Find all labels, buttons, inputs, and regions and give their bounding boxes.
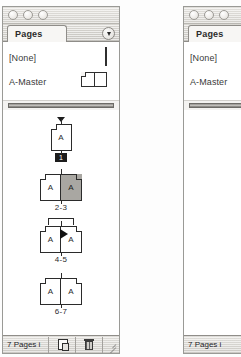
two-page-spread-icon bbox=[81, 72, 107, 87]
page-item-6-7[interactable]: A A 6-7 bbox=[232, 230, 241, 268]
master-row-none[interactable]: [None] bbox=[3, 46, 119, 70]
page-thumbnails: A A bbox=[40, 226, 82, 253]
page-number-badge: 1 bbox=[55, 153, 67, 162]
chevron-down-icon bbox=[107, 32, 111, 36]
page-thumbnails: A A bbox=[40, 174, 82, 201]
page-count-status: 7 Pages i bbox=[3, 340, 48, 349]
tab-pages-label: Pages bbox=[15, 29, 43, 39]
minimize-button[interactable] bbox=[23, 10, 33, 20]
pages-list[interactable]: A A 2-3 A A 4-5 bbox=[184, 110, 241, 344]
page-count-status: 7 Pages i bbox=[184, 340, 241, 349]
panel-tabstrip: Pages bbox=[3, 24, 119, 42]
close-button[interactable] bbox=[189, 10, 199, 20]
page-item-4-5[interactable]: A A 4-5 bbox=[3, 226, 119, 264]
page-thumbnail[interactable]: A bbox=[61, 278, 82, 305]
window-controls bbox=[8, 10, 48, 20]
page-item-2-3[interactable]: A A 2-3 bbox=[3, 174, 119, 212]
panel-tabstrip: Pages bbox=[184, 24, 241, 42]
screenshot-stage: Pages [None] A-Master bbox=[0, 0, 241, 357]
window-controls bbox=[189, 10, 229, 20]
page-item-1[interactable]: A 1 bbox=[3, 124, 119, 162]
splitter-bar bbox=[189, 103, 241, 108]
spread-caption: 4-5 bbox=[55, 255, 67, 264]
panel-menu-button[interactable] bbox=[102, 27, 115, 40]
master-label: [None] bbox=[184, 53, 217, 63]
window-titlebar[interactable] bbox=[184, 7, 241, 24]
page-thumbnail[interactable]: A bbox=[40, 226, 61, 253]
window-titlebar[interactable] bbox=[3, 7, 119, 24]
page-master-letter: A bbox=[48, 235, 53, 244]
new-page-button[interactable] bbox=[48, 337, 75, 353]
master-row-a-master[interactable]: A-Master bbox=[184, 70, 241, 94]
resize-handle[interactable] bbox=[102, 337, 119, 353]
page-thumbnail[interactable]: A bbox=[51, 124, 72, 151]
master-row-a-master[interactable]: A-Master bbox=[3, 70, 119, 94]
tab-pages[interactable]: Pages bbox=[7, 25, 67, 42]
splitter-bar bbox=[8, 103, 114, 108]
page-master-letter: A bbox=[68, 287, 73, 296]
master-label: A-Master bbox=[3, 77, 46, 87]
spread-caption: 2-3 bbox=[55, 203, 67, 212]
page-master-letter: A bbox=[68, 235, 73, 244]
page-master-letter: A bbox=[48, 183, 53, 192]
panel-statusbar: 7 Pages i bbox=[184, 335, 241, 353]
single-page-icon bbox=[105, 48, 107, 66]
trash-icon bbox=[84, 339, 94, 350]
panel-splitter[interactable] bbox=[3, 100, 119, 110]
new-page-icon bbox=[57, 339, 68, 350]
tab-pages[interactable]: Pages bbox=[188, 25, 241, 42]
page-master-letter: A bbox=[58, 133, 63, 142]
pages-list[interactable]: A 1 A A 2-3 bbox=[3, 110, 119, 344]
page-thumbnails: A A bbox=[40, 278, 82, 305]
spread-caption: 6-7 bbox=[55, 307, 67, 316]
page-item-6-7[interactable]: A A 6-7 bbox=[3, 278, 119, 316]
tab-pages-label: Pages bbox=[196, 29, 224, 39]
page-thumbnail[interactable]: A bbox=[40, 278, 61, 305]
page-master-letter: A bbox=[68, 183, 73, 192]
page-master-letter: A bbox=[48, 287, 53, 296]
page-item-4-5[interactable]: A A 4-5 bbox=[232, 176, 241, 214]
page-thumbnail-selected[interactable]: A bbox=[61, 174, 82, 201]
master-row-none[interactable]: [None] bbox=[184, 46, 241, 70]
mouse-cursor-icon bbox=[60, 229, 68, 239]
pages-panel-primary: Pages [None] A-Master bbox=[2, 6, 120, 354]
panel-splitter[interactable] bbox=[184, 100, 241, 110]
zoom-button[interactable] bbox=[38, 10, 48, 20]
pages-panel-secondary: Pages [None] A-Master bbox=[183, 6, 241, 354]
close-button[interactable] bbox=[8, 10, 18, 20]
masters-section: [None] A-Master bbox=[3, 42, 119, 100]
page-thumbnail[interactable]: A bbox=[40, 174, 61, 201]
panel-statusbar: 7 Pages i bbox=[3, 335, 119, 353]
page-item-2-3[interactable]: A A 2-3 bbox=[232, 122, 241, 160]
minimize-button[interactable] bbox=[204, 10, 214, 20]
zoom-button[interactable] bbox=[219, 10, 229, 20]
master-label: [None] bbox=[3, 53, 36, 63]
masters-section: [None] A-Master bbox=[184, 42, 241, 100]
delete-page-button[interactable] bbox=[75, 337, 102, 353]
page-thumbnails: A bbox=[51, 124, 72, 151]
resize-grip-icon bbox=[106, 340, 116, 350]
master-label: A-Master bbox=[184, 77, 227, 87]
